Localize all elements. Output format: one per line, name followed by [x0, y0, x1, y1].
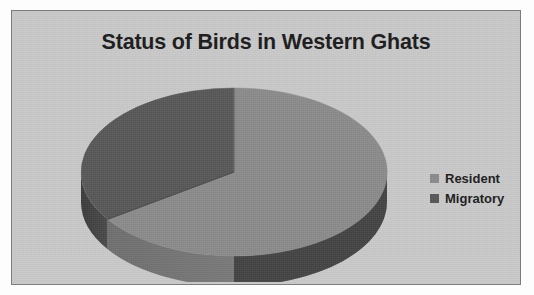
screenshot-root: Status of Birds in Western Ghats	[0, 0, 534, 295]
legend-swatch-migratory	[430, 194, 439, 203]
chart-legend: Resident Migratory	[430, 168, 521, 208]
chart-plate: Status of Birds in Western Ghats	[11, 10, 521, 285]
legend-label-migratory: Migratory	[445, 192, 504, 205]
chart-title: Status of Birds in Western Ghats	[12, 30, 520, 55]
legend-swatch-resident	[430, 174, 439, 183]
legend-item-resident[interactable]: Resident	[430, 168, 521, 188]
legend-item-migratory[interactable]: Migratory	[430, 188, 521, 208]
pie-svg	[60, 67, 390, 282]
pie-chart-3d	[60, 67, 390, 282]
legend-label-resident: Resident	[445, 172, 500, 185]
